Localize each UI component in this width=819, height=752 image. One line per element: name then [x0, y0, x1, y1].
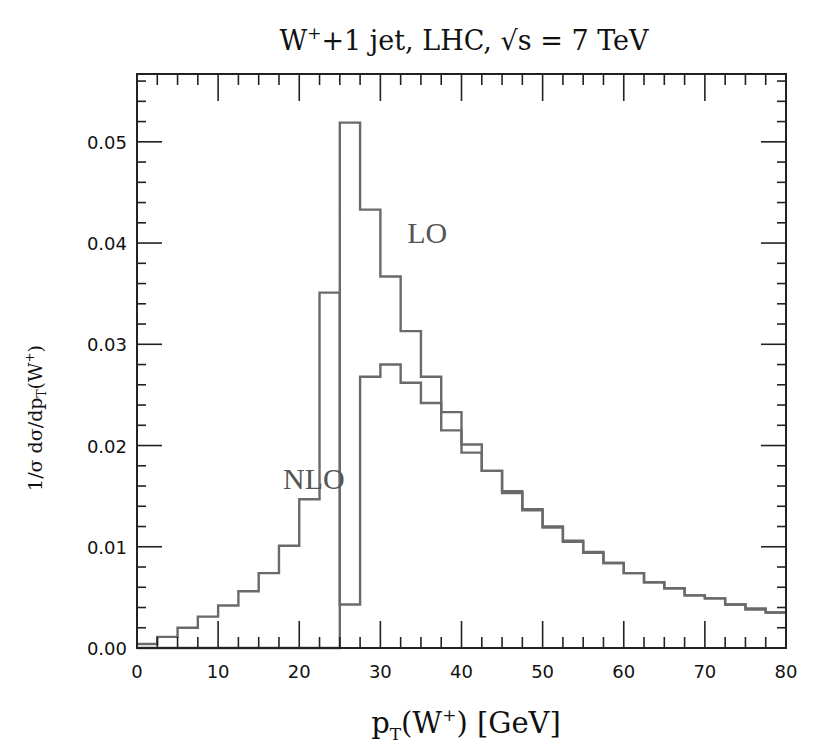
chart: W++1 jet, LHC, √s = 7 TeV 01020304050607…	[0, 0, 819, 752]
histogram-series	[137, 123, 786, 648]
x-tick-label: 60	[612, 661, 635, 682]
x-axis-label: pT(W+) [GeV]	[371, 705, 561, 744]
series-labels: NLOLO	[283, 216, 447, 495]
y-axis-label: 1/σ dσ/dpT(W+)	[23, 345, 49, 491]
y-tick-label: 0.03	[87, 334, 127, 355]
x-tick-label: 0	[131, 661, 142, 682]
series-lo-line	[137, 123, 786, 648]
x-tick-label: 20	[288, 661, 311, 682]
y-tick-label: 0.05	[87, 132, 127, 153]
x-tick-label: 30	[369, 661, 392, 682]
y-tick-label: 0.02	[87, 436, 127, 457]
x-tick-label: 70	[693, 661, 716, 682]
y-tick-label: 0.01	[87, 537, 127, 558]
series-nlo-line	[137, 293, 786, 644]
chart-title: W++1 jet, LHC, √s = 7 TeV	[279, 23, 649, 56]
y-tick-labels: 0.000.010.020.030.040.05	[87, 132, 127, 659]
series-label-lo: LO	[407, 216, 447, 249]
y-tick-label: 0.00	[87, 638, 127, 659]
x-tick-label: 80	[775, 661, 798, 682]
axis-ticks	[137, 74, 786, 648]
y-tick-label: 0.04	[87, 233, 127, 254]
x-tick-label: 50	[531, 661, 554, 682]
plot-frame	[137, 74, 786, 648]
x-tick-label: 10	[207, 661, 230, 682]
x-tick-label: 40	[450, 661, 473, 682]
x-tick-labels: 01020304050607080	[131, 661, 797, 682]
series-label-nlo: NLO	[283, 462, 345, 495]
